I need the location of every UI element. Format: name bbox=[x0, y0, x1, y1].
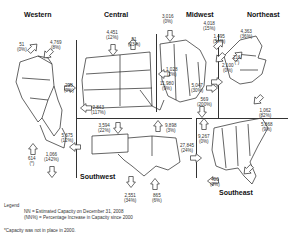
flow-label: 569(200%) bbox=[197, 97, 212, 107]
flow-label: 865(6%) bbox=[152, 193, 162, 203]
flow-label: 614(*) bbox=[28, 156, 36, 166]
flow-label: 2,551(34%) bbox=[124, 193, 136, 203]
flow-label: 4,018(15%) bbox=[203, 21, 215, 31]
flow-label: 2,100(0%) bbox=[222, 63, 234, 73]
flow-label: 51(0%) bbox=[17, 42, 27, 52]
flow-label: 1,066(142%) bbox=[44, 152, 59, 162]
flow-label: 4,363(36%) bbox=[240, 29, 252, 39]
legend-line-percentage: (NN%) = Percentage Increase in Capacity … bbox=[4, 215, 133, 221]
flow-label: 298(0%) bbox=[64, 83, 74, 93]
flow-label: 5,868(9%) bbox=[261, 122, 273, 132]
flow-label: 3,594(22%) bbox=[98, 123, 110, 133]
legend: Legend NN = Estimated Capacity on Decemb… bbox=[4, 203, 133, 221]
flow-label: 4,769(8%) bbox=[50, 40, 62, 50]
flow-label: 1,495(54%) bbox=[213, 34, 225, 44]
flow-label: 3,016(0%) bbox=[162, 14, 174, 24]
flow-label: 5,047(30%) bbox=[191, 83, 203, 93]
footnote: *Capacity was not in place in 2000. bbox=[4, 228, 76, 234]
flow-label: 216(*) bbox=[233, 55, 241, 65]
flow-label: 9,267(0%) bbox=[198, 134, 210, 144]
flow-label: 4,451(12%) bbox=[106, 30, 118, 40]
flow-label: 9,898(3%) bbox=[165, 123, 177, 133]
flow-label: 1,062(82%) bbox=[259, 108, 271, 118]
flow-label: 27,845(24%) bbox=[180, 143, 194, 153]
flow-label: 11,980(9%) bbox=[160, 81, 174, 91]
flow-label: 5,675(12%) bbox=[61, 133, 73, 143]
flow-label: 51(23%) bbox=[128, 37, 140, 47]
flow-label: 1,028(2%) bbox=[166, 67, 178, 77]
flow-label: 2,843(117%) bbox=[91, 105, 105, 115]
flow-label: 400(0%) bbox=[210, 177, 220, 187]
